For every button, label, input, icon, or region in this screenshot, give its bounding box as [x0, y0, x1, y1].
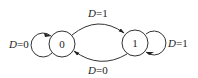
state-1-label: 1: [132, 37, 138, 49]
self-loop-1-label: D=1: [167, 37, 188, 49]
edge-1-to-0: [74, 51, 127, 61]
edge-0-to-1-label: D=1: [87, 7, 108, 19]
state-0: 0: [49, 31, 75, 57]
edge-0-to-1: [72, 24, 124, 35]
state-diagram: 0 1 D=1 D=0 D=0 D=1: [0, 0, 198, 78]
self-loop-1-edge: [146, 31, 166, 55]
state-0-label: 0: [59, 38, 65, 50]
state-1: 1: [122, 30, 148, 56]
edge-1-to-0-label: D=0: [87, 64, 108, 76]
self-loop-0-label: D=0: [8, 38, 29, 50]
